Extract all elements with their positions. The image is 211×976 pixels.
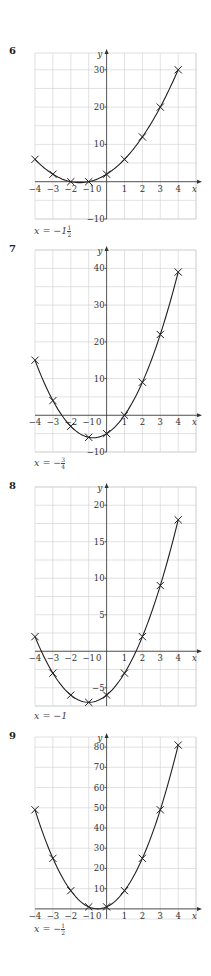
answer-fraction: 12 (61, 923, 65, 936)
svg-text:70: 70 (94, 762, 105, 772)
svg-text:−3: −3 (47, 911, 60, 921)
svg-text:80: 80 (94, 742, 105, 752)
svg-text:20: 20 (94, 863, 105, 873)
svg-text:3: 3 (158, 911, 163, 921)
svg-text:50: 50 (94, 803, 105, 813)
answer-text: x = − (34, 923, 61, 934)
svg-text:1: 1 (122, 911, 127, 921)
graph-panel-q9: 9yx−4−3−2−1012348070605040302010x = −12 (0, 0, 211, 976)
svg-text:60: 60 (94, 783, 105, 793)
svg-text:−1: −1 (82, 911, 95, 921)
svg-text:4: 4 (175, 911, 180, 921)
parabola-chart: yx−4−3−2−1012348070605040302010 (0, 0, 211, 976)
svg-text:−4: −4 (29, 911, 42, 921)
axis-of-symmetry-answer: x = −12 (34, 923, 65, 936)
svg-text:40: 40 (94, 823, 105, 833)
svg-text:−2: −2 (65, 911, 78, 921)
svg-text:0: 0 (96, 911, 101, 921)
svg-text:30: 30 (94, 843, 105, 853)
svg-text:x: x (192, 911, 197, 921)
svg-text:10: 10 (94, 884, 105, 894)
svg-text:2: 2 (140, 911, 145, 921)
